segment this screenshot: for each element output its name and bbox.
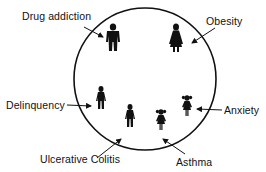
- boy-figure-icon: [125, 104, 135, 127]
- woman-figure-icon: [169, 23, 183, 52]
- arrow-anxiety: [197, 109, 222, 110]
- label-drug-addiction: Drug addiction: [22, 10, 91, 22]
- label-anxiety: Anxiety: [224, 104, 259, 116]
- family-circle: [74, 8, 216, 150]
- arrow-obesity: [192, 28, 215, 43]
- arrow-drug-addiction: [84, 27, 103, 37]
- man-figure-icon: [106, 23, 120, 51]
- girl-figure-icon: [182, 95, 192, 116]
- diagram: Drug addiction Obesity Delinquency Anxie…: [0, 0, 266, 172]
- label-obesity: Obesity: [206, 15, 242, 27]
- boy-figure-icon: [96, 86, 106, 109]
- girl-figure-icon: [156, 109, 166, 130]
- label-asthma: Asthma: [176, 156, 212, 168]
- arrow-delinquency: [67, 105, 91, 106]
- label-ulcerative-colitis: Ulcerative Colitis: [40, 153, 120, 165]
- label-delinquency: Delinquency: [6, 99, 65, 111]
